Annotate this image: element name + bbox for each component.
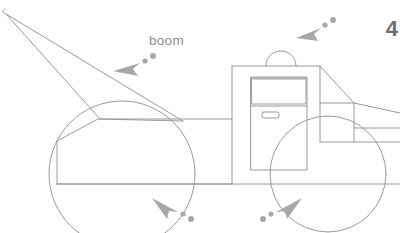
door-window-shape xyxy=(252,78,306,104)
rear-wheel-pointer-icon xyxy=(152,198,194,222)
boom-pointer-icon xyxy=(113,53,156,76)
hood-shape xyxy=(320,103,400,142)
dome-light-shape xyxy=(266,51,296,66)
page-number: 4 xyxy=(386,18,398,40)
front-wheel-pointer-icon xyxy=(260,198,302,222)
tow-truck-drawing xyxy=(0,0,400,233)
truck-bed-shape xyxy=(57,119,232,184)
figure-page: boom 4 xyxy=(0,0,400,233)
dome-light-pointer-icon xyxy=(296,17,336,41)
door-handle-shape xyxy=(262,112,279,118)
boom-shape xyxy=(3,9,183,121)
boom-label: boom xyxy=(149,33,184,48)
windshield-shape xyxy=(320,66,354,103)
